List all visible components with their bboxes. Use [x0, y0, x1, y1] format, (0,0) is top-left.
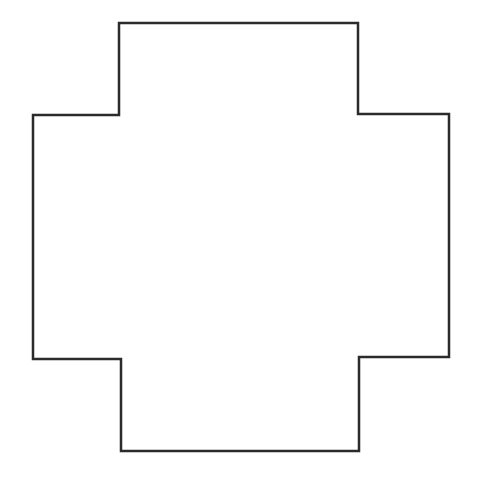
cross-shape	[33, 23, 449, 451]
diagram-canvas	[0, 0, 484, 499]
